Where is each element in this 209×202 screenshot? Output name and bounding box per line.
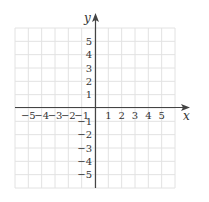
coordinate-plane: x y −5−4−3−2−112345 54321−1−2−3−4−5 <box>0 0 209 202</box>
y-tick-label: −3 <box>77 143 92 154</box>
x-tick-labels: −5−4−3−2−112345 <box>21 110 165 121</box>
x-tick-label: 2 <box>118 110 124 121</box>
y-axis-label: y <box>83 11 91 25</box>
y-tick-label: −5 <box>77 169 92 180</box>
x-axis-label: x <box>183 109 190 123</box>
y-tick-label: 2 <box>86 76 92 87</box>
y-tick-label: −1 <box>77 116 92 127</box>
x-tick-label: 5 <box>158 110 164 121</box>
y-tick-label: 5 <box>86 36 92 47</box>
y-tick-label: −4 <box>77 156 92 167</box>
y-tick-label: 3 <box>86 63 92 74</box>
x-tick-label: 1 <box>105 110 111 121</box>
y-tick-label: −2 <box>77 129 92 140</box>
x-tick-label: 4 <box>145 110 151 121</box>
y-tick-label: 1 <box>86 89 92 100</box>
x-tick-label: 3 <box>132 110 138 121</box>
y-tick-label: 4 <box>86 49 92 60</box>
